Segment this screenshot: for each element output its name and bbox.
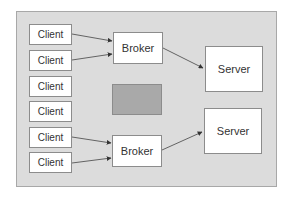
client-label: Client — [38, 55, 64, 66]
broker-node-1: Broker — [113, 32, 163, 64]
server-label: Server — [218, 63, 250, 75]
server-node-2: Server — [204, 108, 262, 154]
client-label: Client — [38, 157, 64, 168]
server-label: Server — [217, 125, 249, 137]
client-node-4: Client — [29, 101, 72, 122]
client-node-5: Client — [29, 127, 72, 148]
client-label: Client — [38, 132, 64, 143]
client-node-1: Client — [29, 24, 72, 45]
broker-label: Broker — [122, 42, 154, 54]
client-node-2: Client — [29, 50, 72, 71]
gray-block — [112, 84, 162, 115]
server-node-1: Server — [205, 46, 263, 92]
client-label: Client — [38, 29, 64, 40]
client-node-3: Client — [29, 76, 72, 97]
client-label: Client — [38, 106, 64, 117]
broker-node-2: Broker — [112, 135, 162, 167]
client-label: Client — [38, 81, 64, 92]
client-node-6: Client — [29, 152, 72, 173]
broker-label: Broker — [121, 145, 153, 157]
